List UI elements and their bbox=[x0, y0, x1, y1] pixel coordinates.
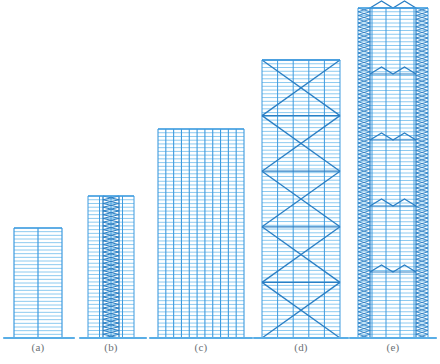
building-d bbox=[262, 60, 340, 338]
structural-systems-diagram bbox=[0, 0, 440, 364]
figure-canvas: (a) (b) (c) (d) (e) bbox=[0, 0, 440, 364]
